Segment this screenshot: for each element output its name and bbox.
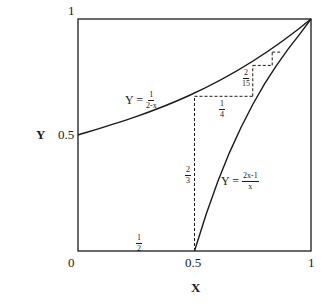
x-axis-label: X bbox=[191, 281, 200, 294]
equation-upper-den: 2-x bbox=[146, 101, 157, 110]
annotation-half-num: 1 bbox=[136, 234, 142, 244]
annotation-quarter-num: 1 bbox=[219, 100, 225, 110]
equation-lower-fraction: 2x-1 x bbox=[242, 172, 259, 191]
x-tick-0: 0 bbox=[68, 256, 75, 269]
equation-upper-fraction: 1 2-x bbox=[146, 91, 157, 110]
curve-lower bbox=[195, 19, 312, 251]
equation-lower-den: x bbox=[248, 182, 252, 191]
equation-upper-lhs: Y = bbox=[125, 93, 143, 108]
annotation-half: 1 2 bbox=[136, 234, 142, 253]
equation-upper: Y = 1 2-x bbox=[125, 91, 157, 110]
equation-lower: Y = 2x-1 x bbox=[221, 172, 259, 191]
annotation-two-thirds: 2 3 bbox=[185, 166, 191, 185]
y-tick-0-5: 0.5 bbox=[58, 128, 74, 141]
annotation-two-fifteenths-num: 2 bbox=[243, 69, 249, 79]
staircase-dashed bbox=[195, 52, 283, 251]
annotation-half-den: 2 bbox=[137, 244, 141, 253]
plot-canvas bbox=[0, 0, 330, 307]
equation-lower-lhs: Y = bbox=[221, 174, 239, 189]
annotation-two-fifteenths-den: 15 bbox=[242, 79, 250, 88]
annotation-two-fifteenths: 2 15 bbox=[242, 69, 250, 88]
x-tick-1: 1 bbox=[308, 256, 315, 269]
equation-lower-num: 2x-1 bbox=[242, 172, 259, 182]
annotation-two-thirds-den: 3 bbox=[186, 176, 190, 185]
annotation-quarter-den: 4 bbox=[220, 110, 224, 119]
curve-upper-fix bbox=[78, 19, 311, 135]
equation-upper-num: 1 bbox=[148, 91, 154, 101]
x-tick-0-5: 0.5 bbox=[185, 256, 201, 269]
y-axis-label: Y bbox=[36, 128, 45, 141]
y-tick-1: 1 bbox=[68, 4, 75, 17]
annotation-quarter: 1 4 bbox=[219, 100, 225, 119]
annotation-two-thirds-num: 2 bbox=[185, 166, 191, 176]
